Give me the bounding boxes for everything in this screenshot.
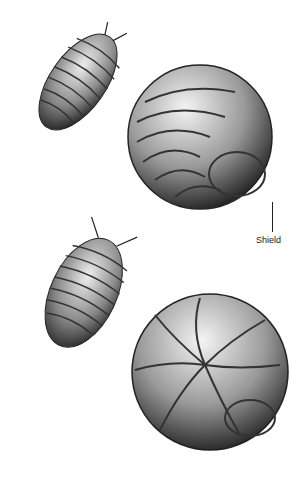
pillbug-extended-top (18, 12, 138, 147)
pillbug-rolled-bottom (130, 290, 290, 455)
shield-leader-line (272, 202, 273, 232)
shield-label: Shield (256, 235, 281, 245)
pillbug-rolled-top (125, 62, 275, 212)
